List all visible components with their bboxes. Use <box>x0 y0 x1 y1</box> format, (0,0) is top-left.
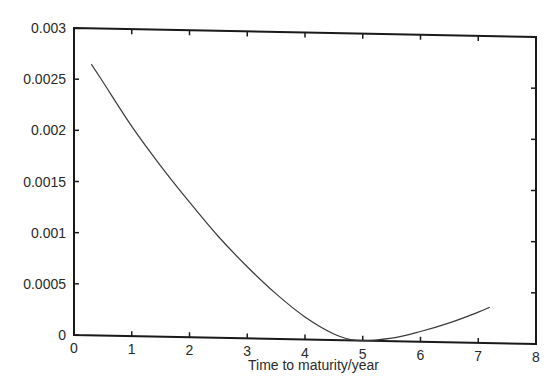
y-tick-labels: 00.00050.0010.00150.0020.00250.003 <box>23 20 66 343</box>
y-tick-label: 0.002 <box>31 122 66 138</box>
x-tick-label: 1 <box>128 341 136 357</box>
plot-frame <box>74 28 536 344</box>
y-tick-label: 0 <box>58 327 66 343</box>
y-tick-label: 0.001 <box>31 225 66 241</box>
axis-ticks <box>74 28 536 344</box>
x-tick-label: 8 <box>532 349 540 365</box>
x-tick-label: 6 <box>417 347 425 363</box>
data-line <box>91 64 489 341</box>
x-tick-label: 7 <box>474 348 482 364</box>
x-tick-label: 0 <box>70 340 78 356</box>
y-tick-label: 0.0015 <box>23 174 66 190</box>
y-tick-label: 0.0025 <box>23 71 66 87</box>
x-axis-title: Time to maturity/year <box>248 357 379 373</box>
y-tick-label: 0.003 <box>31 20 66 36</box>
chart: 012345678 00.00050.0010.00150.0020.00250… <box>0 0 549 384</box>
x-tick-label: 2 <box>186 342 194 358</box>
y-tick-label: 0.0005 <box>23 276 66 292</box>
